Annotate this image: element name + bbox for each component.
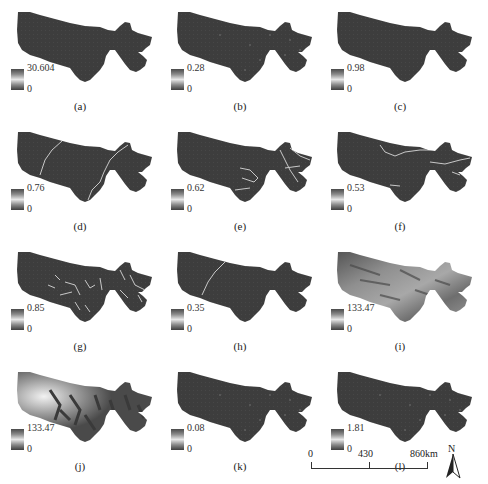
legend-gradient-bar <box>171 189 184 210</box>
legend-max-value: 0.53 <box>347 183 365 193</box>
region-map <box>0 360 160 450</box>
legend-gradient-bar <box>171 429 184 450</box>
legend-min-value: 0 <box>187 444 192 454</box>
map-panel-d: 0.76 0 (d) <box>0 120 160 238</box>
map-panel-h: 0.35 0 (h) <box>160 240 320 358</box>
legend-max-value: 0.62 <box>187 183 205 193</box>
region-map <box>0 0 160 90</box>
scale-tick <box>427 462 428 469</box>
scale-label-0: 0 <box>308 448 313 459</box>
legend-gradient-bar <box>171 69 184 90</box>
panel-caption: (c) <box>320 100 480 112</box>
legend-min-value: 0 <box>187 84 192 94</box>
region-map <box>160 120 320 210</box>
map-panel-f: 0.53 0 (f) <box>320 120 480 238</box>
legend-gradient-bar <box>171 309 184 330</box>
legend-max-value: 0.85 <box>27 303 45 313</box>
region-map <box>320 360 480 450</box>
legend-max-value: 0.28 <box>187 63 205 73</box>
legend-min-value: 0 <box>27 324 32 334</box>
legend-max-value: 0.08 <box>187 423 205 433</box>
north-arrow: N <box>444 443 462 479</box>
panel-caption: (d) <box>0 220 160 232</box>
legend-min-value: 0 <box>27 84 32 94</box>
legend-max-value: 133.47 <box>27 423 55 433</box>
panel-caption: (e) <box>160 220 320 232</box>
map-panel-c: 0.98 0 (c) <box>320 0 480 118</box>
legend-gradient-bar <box>331 189 344 210</box>
region-map <box>320 240 480 330</box>
panel-caption: (g) <box>0 340 160 352</box>
legend-gradient-bar <box>331 429 344 450</box>
legend-max-value: 0.35 <box>187 303 205 313</box>
scale-tick <box>311 462 312 469</box>
panel-caption: (h) <box>160 340 320 352</box>
region-map <box>320 0 480 90</box>
legend-min-value: 0 <box>187 204 192 214</box>
panel-caption: (b) <box>160 100 320 112</box>
map-panel-b: 0.28 0 (b) <box>160 0 320 118</box>
scale-label-860: 860km <box>410 448 438 459</box>
region-map <box>0 240 160 330</box>
legend-min-value: 0 <box>27 204 32 214</box>
legend-gradient-bar <box>11 69 24 90</box>
map-panel-j: 133.47 0 (j) <box>0 360 160 478</box>
region-map <box>0 120 160 210</box>
region-map <box>160 240 320 330</box>
legend-max-value: 0.98 <box>347 63 365 73</box>
map-panel-g: 0.85 0 (g) <box>0 240 160 358</box>
map-panel-e: 0.62 0 (e) <box>160 120 320 238</box>
legend-gradient-bar <box>11 309 24 330</box>
legend-max-value: 133.47 <box>347 303 375 313</box>
legend-min-value: 0 <box>347 204 352 214</box>
scale-label-430: 430 <box>358 448 373 459</box>
legend-gradient-bar <box>331 309 344 330</box>
region-map <box>160 360 320 450</box>
north-arrow-icon <box>444 454 462 480</box>
panel-caption: (a) <box>0 100 160 112</box>
legend-min-value: 0 <box>187 324 192 334</box>
region-map <box>320 120 480 210</box>
legend-max-value: 0.76 <box>27 183 45 193</box>
legend-max-value: 1.81 <box>347 423 365 433</box>
panel-caption: (f) <box>320 220 480 232</box>
region-map <box>160 0 320 90</box>
legend-gradient-bar <box>331 69 344 90</box>
map-panel-i: 133.47 0 (i) <box>320 240 480 358</box>
legend-min-value: 0 <box>347 84 352 94</box>
panel-caption: (i) <box>320 340 480 352</box>
legend-gradient-bar <box>11 429 24 450</box>
legend-gradient-bar <box>11 189 24 210</box>
panel-caption: (j) <box>0 460 160 472</box>
scale-bar: 0 430 860km <box>308 448 438 478</box>
scale-tick <box>369 462 370 469</box>
panel-caption: (k) <box>160 460 320 472</box>
north-label: N <box>448 443 455 454</box>
legend-max-value: 30.604 <box>27 63 55 73</box>
map-panel-a: 30.604 0 (a) <box>0 0 160 118</box>
legend-min-value: 0 <box>27 444 32 454</box>
legend-min-value: 0 <box>347 324 352 334</box>
map-panel-k: 0.08 0 (k) <box>160 360 320 478</box>
